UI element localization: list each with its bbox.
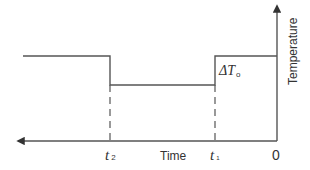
t1-label: t1 — [210, 147, 220, 163]
delta-t-label: ΔTo — [218, 63, 241, 79]
t2-label: t2 — [105, 147, 116, 163]
x-axis-label: Time — [160, 149, 187, 163]
origin-label: 0 — [272, 147, 280, 163]
y-axis-label: Temperature — [286, 17, 300, 85]
temperature-time-diagram: t2 Time t1 0 ΔTo Temperature — [0, 0, 310, 170]
